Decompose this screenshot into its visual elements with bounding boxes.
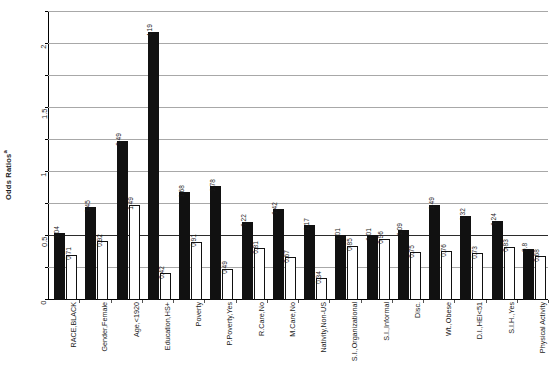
x-axis-category-label: RACE,BLACK (70, 302, 77, 348)
bar-filled: 1.49 (429, 205, 440, 300)
y-axis-tick-mark (45, 171, 48, 172)
x-axis-category-label: S.I.H.,Yes (508, 302, 515, 334)
bar-value-label: 0.81 (253, 241, 260, 254)
bar-value-label: 0.83 (503, 240, 510, 253)
gridline: 4.5 (48, 11, 548, 12)
bar-filled: 1.45 (85, 207, 96, 300)
bar-filled: 1.17 (304, 225, 315, 300)
y-axis-tick-mark (45, 43, 48, 44)
bar-value-label: 0.96 (378, 231, 385, 244)
bar-hollow: 0.96 (379, 239, 390, 300)
x-axis-tick-mark (236, 300, 237, 303)
bar-filled: 1.01 (367, 235, 378, 300)
bar-value-label: 1.32 (459, 208, 466, 221)
bar-hollow: 1.49 (129, 205, 140, 300)
bar-value-label: 1.09 (397, 223, 404, 236)
bar-hollow: 0.75 (410, 252, 421, 300)
bar-filled: 4.19 (148, 32, 159, 300)
y-axis-tick-mark (45, 299, 48, 300)
bar-value-label: 0.92 (96, 234, 103, 247)
bar-value-label: 0.49 (221, 261, 228, 274)
plot-area: 00.511.522.533.544.5 1.040.711.450.922.4… (48, 12, 548, 300)
bar-value-label: 0.34 (315, 271, 322, 284)
bar-hollow: 0.91 (191, 242, 202, 300)
bar-value-label: 1.49 (128, 197, 135, 210)
y-axis-line (48, 12, 49, 300)
x-axis-tick-mark (204, 300, 205, 303)
bar-value-label: 1.45 (84, 200, 91, 213)
x-axis-tick-mark (361, 300, 362, 303)
y-axis-tick-mark (45, 235, 48, 236)
bar-value-label: 1.04 (53, 226, 60, 239)
bar-value-label: 1.01 (334, 228, 341, 241)
y-axis-tick-label: 1.5 (40, 108, 48, 118)
x-axis-tick-mark (111, 300, 112, 303)
bar-value-label: 1.22 (241, 215, 248, 228)
x-axis-category-label: Gender,Female (101, 302, 108, 352)
bar-filled: 1.09 (398, 230, 409, 300)
bar-hollow: 0.67 (285, 257, 296, 300)
x-axis-tick-mark (423, 300, 424, 303)
bar-value-label: 0.71 (65, 247, 72, 260)
y-axis-title-superscript: a (2, 150, 8, 154)
x-axis-tick-mark (517, 300, 518, 303)
bar-value-label: 0.67 (284, 250, 291, 263)
x-axis-category-label: P.Poverty,Yes (226, 302, 233, 345)
bar-filled: 1.78 (210, 186, 221, 300)
y-axis-title: Odds Ratiosa (2, 120, 13, 230)
bar-hollow: 0.92 (97, 241, 108, 300)
x-axis-category-label: M.Care,No (289, 302, 296, 337)
bar-filled: 1.24 (492, 221, 503, 300)
bar-value-label: 1.78 (209, 179, 216, 192)
x-axis-category-label: R.Care,No (258, 302, 265, 336)
x-axis-category-label: Nativity,Non-US (320, 302, 327, 353)
bar-value-label: 0.76 (440, 244, 447, 257)
odds-ratios-bar-chart: Odds Ratiosa 00.511.522.533.544.5 1.040.… (0, 0, 560, 376)
y-axis-tick-mark (45, 139, 48, 140)
x-axis-category-label: Disc. (414, 302, 421, 318)
x-axis-category-label: Wt.,Obese (445, 302, 452, 336)
bar-filled: 1.04 (54, 233, 65, 300)
bar-value-label: 1.42 (272, 202, 279, 215)
bar-value-label: 2.49 (116, 133, 123, 146)
bar-value-label: 1.24 (491, 213, 498, 226)
x-axis-tick-mark (329, 300, 330, 303)
bar-value-label: 1.17 (303, 218, 310, 231)
bar-hollow: 0.81 (254, 248, 265, 300)
bar-value-label: 0.73 (471, 246, 478, 259)
bar-hollow: 0.73 (472, 253, 483, 300)
bar-hollow: 0.83 (504, 247, 515, 300)
y-axis-tick-mark (45, 203, 48, 204)
x-axis-tick-mark (548, 300, 549, 303)
x-axis-tick-mark (298, 300, 299, 303)
x-axis-category-label: Physical Activity (539, 302, 546, 353)
bar-value-label: 4.19 (147, 25, 154, 38)
bar-hollow: 0.49 (222, 269, 233, 300)
bar-hollow: 0.42 (160, 273, 171, 300)
y-axis-tick-label: 0 (40, 300, 48, 304)
x-axis-tick-mark (142, 300, 143, 303)
bar-value-label: 1.01 (366, 228, 373, 241)
bar-value-label: 1.68 (178, 185, 185, 198)
bar-hollow: 0.76 (441, 251, 452, 300)
x-axis-tick-mark (173, 300, 174, 303)
y-axis-tick-label: 1 (40, 172, 48, 176)
gridline: 3 (48, 107, 548, 108)
x-axis-category-label: Age,<1920 (133, 302, 140, 337)
x-axis-category-label: D.I.,HEI<51 (476, 302, 483, 339)
bar-hollow: 0.85 (347, 246, 358, 300)
bar-value-label: 0.91 (190, 234, 197, 247)
x-axis-category-labels: RACE,BLACKGender,FemaleAge,<1920Educatio… (48, 302, 548, 376)
bar-value-label: 0.75 (409, 245, 416, 258)
bar-value-label: 1.49 (428, 197, 435, 210)
x-axis-tick-mark (454, 300, 455, 303)
bar-hollow: 0.68 (535, 256, 546, 300)
bar-filled: 2.49 (117, 141, 128, 300)
y-axis-tick-mark (45, 11, 48, 12)
y-axis-tick-label: 2 (40, 44, 48, 48)
bar-hollow: 0.71 (66, 255, 77, 300)
x-axis-tick-mark (267, 300, 268, 303)
y-axis-tick-label: 0.5 (40, 236, 48, 246)
y-axis-title-text: Odds Ratios (4, 154, 13, 200)
gridline: 3.5 (48, 75, 548, 76)
